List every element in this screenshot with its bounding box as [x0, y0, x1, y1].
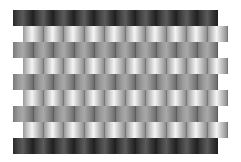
brick	[23, 26, 44, 42]
brick	[34, 138, 55, 154]
brick	[75, 106, 96, 122]
brick	[23, 58, 44, 74]
brick	[54, 42, 75, 58]
brick	[54, 74, 75, 90]
brick	[177, 138, 198, 154]
brick-row-4	[23, 58, 228, 74]
brick	[136, 138, 157, 154]
brick	[208, 90, 229, 106]
brick	[64, 90, 85, 106]
brick	[44, 122, 65, 138]
brick	[198, 106, 219, 122]
brick	[95, 42, 116, 58]
brick	[177, 106, 198, 122]
brick	[187, 122, 208, 138]
brick	[187, 26, 208, 42]
brick	[105, 90, 126, 106]
brick	[167, 90, 188, 106]
brick	[157, 10, 178, 26]
brick	[146, 90, 167, 106]
brick	[136, 42, 157, 58]
brick-row-3	[13, 42, 218, 58]
brick-row-7	[13, 106, 218, 122]
brick	[34, 106, 55, 122]
brick	[208, 122, 229, 138]
brick	[44, 26, 65, 42]
brick	[105, 122, 126, 138]
brick-row-1	[13, 10, 218, 26]
brick	[146, 26, 167, 42]
brick	[64, 26, 85, 42]
brick	[146, 58, 167, 74]
brick	[116, 138, 137, 154]
brick	[116, 74, 137, 90]
brick	[126, 122, 147, 138]
brick	[13, 42, 34, 58]
brick	[177, 42, 198, 58]
brick	[167, 58, 188, 74]
brick	[54, 106, 75, 122]
brick	[116, 42, 137, 58]
brick	[116, 10, 137, 26]
brick	[177, 74, 198, 90]
brick	[208, 26, 229, 42]
brick	[34, 42, 55, 58]
brick	[136, 74, 157, 90]
brick	[64, 58, 85, 74]
brick	[177, 10, 198, 26]
brick	[105, 26, 126, 42]
brick	[198, 42, 219, 58]
brick	[167, 26, 188, 42]
brick-row-2	[23, 26, 228, 42]
brick	[13, 74, 34, 90]
brick	[85, 58, 106, 74]
brick-row-8	[23, 122, 228, 138]
brick	[157, 138, 178, 154]
brick	[126, 26, 147, 42]
brick-row-6	[23, 90, 228, 106]
brick-row-9	[13, 138, 218, 154]
brick	[75, 138, 96, 154]
brick-row-5	[13, 74, 218, 90]
brick	[208, 58, 229, 74]
brick	[157, 74, 178, 90]
brick	[198, 74, 219, 90]
brick	[85, 122, 106, 138]
brick	[23, 122, 44, 138]
brick	[64, 122, 85, 138]
brick	[198, 138, 219, 154]
brick	[13, 138, 34, 154]
brick	[34, 10, 55, 26]
brick	[105, 58, 126, 74]
brick	[23, 90, 44, 106]
brick	[75, 74, 96, 90]
brick	[95, 74, 116, 90]
brick	[13, 106, 34, 122]
brick	[198, 10, 219, 26]
brick	[187, 58, 208, 74]
brick	[157, 106, 178, 122]
brick	[85, 90, 106, 106]
brick	[95, 138, 116, 154]
brick	[116, 106, 137, 122]
brick	[95, 10, 116, 26]
brick	[75, 10, 96, 26]
brick	[54, 138, 75, 154]
brick	[85, 26, 106, 42]
brick	[54, 10, 75, 26]
brick	[187, 90, 208, 106]
brick	[136, 10, 157, 26]
brick	[34, 74, 55, 90]
brick	[95, 106, 116, 122]
brick	[157, 42, 178, 58]
brick	[75, 42, 96, 58]
brick	[44, 58, 65, 74]
brick	[126, 90, 147, 106]
brick	[167, 122, 188, 138]
brick	[136, 106, 157, 122]
brick	[44, 90, 65, 106]
brick	[13, 10, 34, 26]
brick	[146, 122, 167, 138]
brick	[126, 58, 147, 74]
